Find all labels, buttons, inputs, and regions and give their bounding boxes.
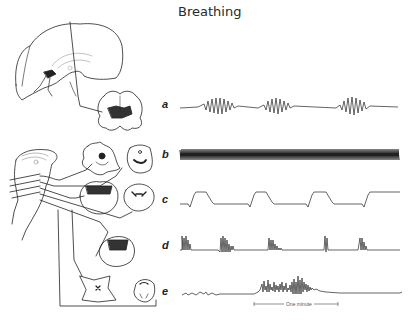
midbrain-sections-illustration [82, 142, 152, 175]
trace-d [180, 236, 400, 252]
trace-label-e: e [162, 285, 168, 297]
figure-drawing [0, 0, 413, 322]
trace-label-a: a [162, 98, 168, 110]
lower-pons-section-illustration [99, 237, 134, 267]
trace-e [182, 276, 402, 295]
medulla-sections-illustration [80, 276, 155, 302]
brain-sagittal-illustration [16, 22, 123, 112]
trace-label-c: c [162, 193, 168, 205]
coronal-section-illustration [98, 91, 142, 130]
trace-label-b: b [162, 148, 169, 160]
trace-c [180, 192, 400, 207]
trace-label-d: d [162, 239, 169, 251]
scale-bar-label: One minute [284, 301, 314, 307]
trace-a [180, 97, 398, 115]
trace-b [180, 149, 399, 160]
